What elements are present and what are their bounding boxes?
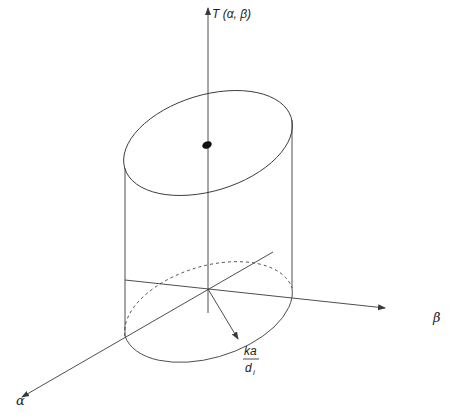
alpha-axis-label: α <box>16 393 25 408</box>
cylinder-diagram: T (α, β) β α ka d i <box>0 0 453 419</box>
vertical-axis-label: T (α, β) <box>212 7 251 21</box>
beta-axis-label: β <box>432 310 441 325</box>
beta-axis <box>125 280 385 308</box>
center-dot <box>201 140 213 151</box>
radius-label: ka d i <box>243 344 259 377</box>
alpha-axis <box>22 252 273 397</box>
bottom-ellipse-front <box>125 288 292 362</box>
radius-denominator-subscript: i <box>253 368 255 377</box>
radius-arrow <box>208 289 238 339</box>
radius-denominator: d <box>245 361 252 375</box>
radius-numerator: ka <box>244 344 257 358</box>
